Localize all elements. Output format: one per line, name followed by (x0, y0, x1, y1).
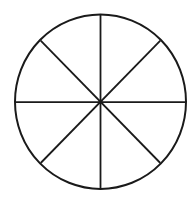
divided-circle-diagram (0, 0, 195, 198)
center-point (99, 100, 103, 104)
